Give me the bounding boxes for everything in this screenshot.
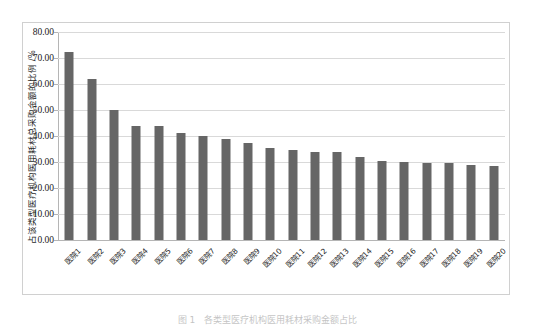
bar-slot [170,32,192,240]
bar[interactable] [87,79,96,240]
y-axis-tick-label: 60.00 [2,79,54,89]
x-axis-tick-label: 医院18 [438,245,462,269]
bar-slot [483,32,505,240]
bar-slot [326,32,348,240]
bar-slot [282,32,304,240]
bar-slot [371,32,393,240]
bar-slot [393,32,415,240]
bar[interactable] [422,163,431,240]
bar[interactable] [266,148,275,240]
bar[interactable] [199,136,208,240]
bar-slot [147,32,169,240]
x-axis-tick-label: 医院19 [461,245,485,269]
x-axis-tick-label: 医院7 [196,245,217,266]
y-axis-tick-label: 20.00 [2,183,54,193]
bar-slot [304,32,326,240]
x-axis-tick-label: 医院2 [84,245,105,266]
x-axis-tick-label: 医院9 [241,245,262,266]
bar[interactable] [311,152,320,240]
x-axis-tick-label: 医院15 [371,245,395,269]
bar-slot [460,32,482,240]
x-axis-tick-label: 医院4 [129,245,150,266]
x-axis-tick-label: 医院20 [483,245,507,269]
bar[interactable] [65,52,74,241]
bar[interactable] [132,126,141,240]
bar[interactable] [355,157,364,240]
bar-slot [214,32,236,240]
x-axis-tick-label: 医院17 [416,245,440,269]
x-axis-line [58,240,505,241]
bar-slot [80,32,102,240]
x-axis-tick-label: 医院12 [304,245,328,269]
bar-slot [103,32,125,240]
x-axis-tick-label: 医院13 [327,245,351,269]
bar-slot [259,32,281,240]
bar[interactable] [333,152,342,240]
bar[interactable] [154,126,163,240]
x-axis-tick-label: 医院16 [394,245,418,269]
bar[interactable] [489,166,498,240]
bar-series [58,32,505,240]
bar-slot [58,32,80,240]
x-axis-tick-label: 医院8 [218,245,239,266]
y-axis-tick-label: 70.00 [2,53,54,63]
x-axis-tick-labels: 医院1医院2医院3医院4医院5医院6医院7医院8医院9医院10医院11医院12医… [58,243,505,295]
bar-slot [125,32,147,240]
bar[interactable] [467,165,476,240]
y-axis-tick-label: 10.00 [2,209,54,219]
y-axis-tick-label: 0.00 [2,235,54,245]
bar[interactable] [445,163,454,240]
bar[interactable] [378,161,387,240]
y-axis-tick-mark [54,240,58,241]
bar[interactable] [221,139,230,240]
x-axis-tick-label: 医院1 [62,245,83,266]
x-axis-tick-label: 医院3 [107,245,128,266]
bar-slot [438,32,460,240]
bar[interactable] [288,150,297,240]
x-axis-tick-label: 医院6 [174,245,195,266]
bar-slot [192,32,214,240]
bar-slot [416,32,438,240]
x-axis-tick-label: 医院11 [282,245,306,269]
y-axis-tick-label: 80.00 [2,27,54,37]
y-axis-tick-label: 30.00 [2,157,54,167]
bar[interactable] [176,133,185,240]
bar[interactable] [400,162,409,240]
bar[interactable] [109,110,118,240]
plot-area [58,32,505,240]
x-axis-tick-label: 医院5 [151,245,172,266]
x-axis-tick-label: 医院14 [349,245,373,269]
bar[interactable] [243,143,252,241]
bar-slot [349,32,371,240]
y-axis-tick-labels: 80.0070.0060.0050.0040.0030.0020.0010.00… [0,32,54,240]
bar-slot [237,32,259,240]
figure-caption: 图 1 各类型医疗机构医用耗材采购金额占比 [0,313,535,328]
y-axis-tick-label: 50.00 [2,105,54,115]
figure-container: 占该类型医疗机构医用耗材总采购金额的比例 /% 80.0070.0060.005… [0,0,535,328]
x-axis-tick-label: 医院10 [260,245,284,269]
y-axis-tick-label: 40.00 [2,131,54,141]
